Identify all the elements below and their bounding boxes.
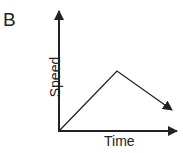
y-axis-label: Speed [48, 55, 62, 99]
x-axis-label: Time [104, 134, 135, 148]
graph-svg [0, 0, 183, 153]
panel-label: B [3, 10, 16, 29]
speed-time-diagram: B Speed Time [0, 0, 183, 153]
speed-line [59, 71, 172, 131]
